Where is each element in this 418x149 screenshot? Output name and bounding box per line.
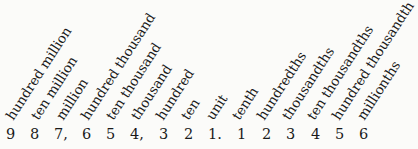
digit-millionths: 6 <box>359 126 368 142</box>
digit-thousand: 4, <box>130 126 144 142</box>
digit-unit: 1. <box>208 126 222 142</box>
digit-hundredths: 2 <box>262 126 271 142</box>
digit-ten: 2 <box>184 126 193 142</box>
label-ten: ten <box>178 96 202 122</box>
label-unit: unit <box>203 92 229 122</box>
label-tenth: tenth <box>229 84 260 122</box>
digit-tenth: 1 <box>237 126 246 142</box>
digit-ten-thousand: 5 <box>106 126 115 142</box>
digit-hundred: 3 <box>159 126 168 142</box>
digit-million: 7, <box>54 126 68 142</box>
digit-thousandths: 3 <box>286 126 295 142</box>
place-value-diagram: hundred million ten million million hund… <box>0 0 418 149</box>
digit-hundred-thousand: 6 <box>82 126 91 142</box>
digit-hundred-million: 9 <box>6 126 15 142</box>
digit-ten-million: 8 <box>30 126 39 142</box>
digit-hundred-thousandth: 5 <box>335 126 344 142</box>
digit-ten-thousandths: 4 <box>311 126 320 142</box>
